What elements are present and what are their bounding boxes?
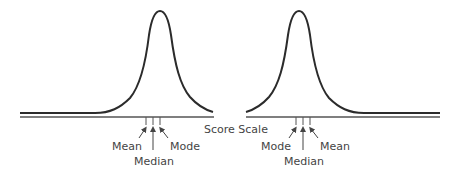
left-label-mode: Mode (170, 140, 200, 153)
left-arrow-mode (161, 129, 168, 138)
axis-label: Score Scale (204, 123, 268, 136)
right-label-mean: Mean (320, 140, 350, 153)
left-arrow-mean (139, 129, 145, 138)
right-distribution: Mode Median Mean (246, 11, 440, 168)
left-label-mean: Mean (112, 140, 142, 153)
left-distribution: Mean Median Mode (20, 11, 214, 168)
right-arrow-mean (311, 129, 318, 138)
left-curve (20, 11, 213, 113)
right-label-mode: Mode (261, 140, 291, 153)
right-curve (246, 11, 440, 113)
right-arrow-mode (289, 129, 295, 138)
right-label-median: Median (284, 155, 324, 168)
skewness-diagram: Mean Median Mode Score Scale Mode Median… (0, 0, 458, 176)
left-label-median: Median (134, 155, 174, 168)
